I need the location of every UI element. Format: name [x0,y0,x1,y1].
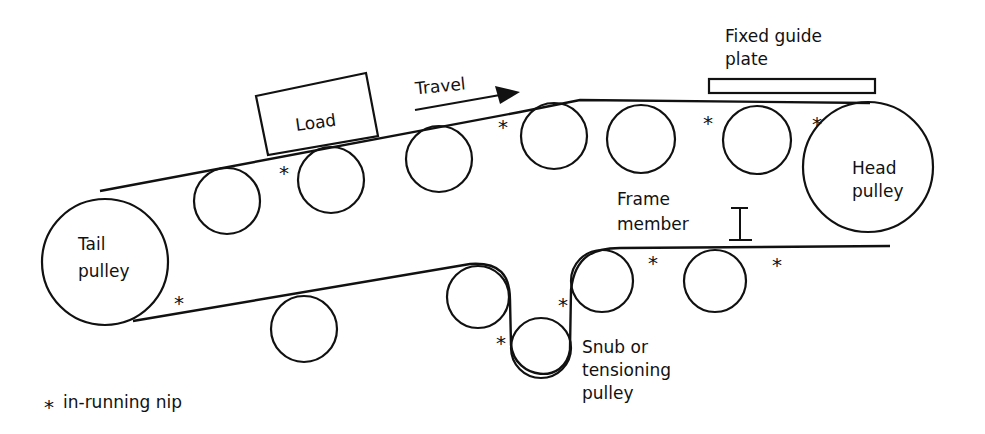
head-pulley-label-line2: pulley [852,181,904,201]
guide-plate-label-line2: plate [725,49,768,69]
nip-marker: * [648,251,658,275]
guide-plate-label-line1: Fixed guide [725,26,822,46]
upper-idler-roller [298,147,364,213]
return-idler-roller [447,266,509,328]
conveyor-diagram: Load Travel Fixed guide plate Head pulle… [0,0,985,434]
upper-idler-roller [406,126,472,192]
travel-arrow-icon [495,86,520,104]
upper-idler-roller [194,168,260,234]
nip-marker: * [558,293,568,317]
snub-tensioning-pulley [511,318,571,378]
upper-idler-roller [521,103,587,169]
fixed-guide-plate [709,79,875,93]
nip-marker: * [174,291,184,315]
snub-label-line3: pulley [582,383,634,403]
nip-marker: * [279,161,289,185]
return-idler-roller [571,250,633,312]
nip-marker: * [496,331,506,355]
return-idler-roller [684,250,746,312]
nip-marker: * [498,115,508,139]
legend-text: in-running nip [63,392,182,412]
legend-nip-symbol: * [44,395,54,419]
snub-label-line2: tensioning [582,360,671,380]
frame-member-label-line1: Frame [617,189,670,209]
load-label: Load [294,110,337,135]
head-pulley-label-line1: Head [852,158,896,178]
frame-member-icon [729,208,752,240]
travel-label: Travel [413,73,466,98]
return-idler-roller [271,296,337,362]
snub-label-line1: Snub or [582,337,648,357]
frame-member-label-line2: member [617,214,689,234]
nip-marker: * [772,253,782,277]
upper-idler-roller [607,105,675,173]
upper-idler-roller [723,106,791,174]
tail-pulley-label-line1: Tail [77,234,105,254]
nip-marker: * [703,111,713,135]
belt-top-run [100,100,870,191]
tail-pulley-label-line2: pulley [78,261,130,281]
nip-marker: * [812,112,822,136]
